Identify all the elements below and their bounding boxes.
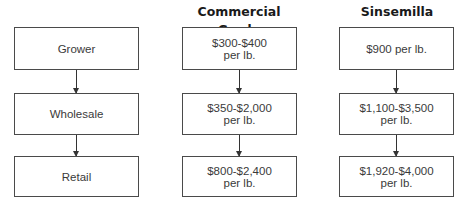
arrow-down-icon: [396, 70, 397, 93]
stage-label: Retail: [62, 171, 91, 183]
price-range: $350-$2,000: [207, 102, 272, 114]
stage-box-wholesale: Wholesale: [14, 93, 139, 135]
price-range: $1,100-$3,500: [359, 102, 433, 114]
heading-commercial-grade: Commercial Grade: [176, 3, 302, 21]
price-unit: per lb.: [381, 177, 413, 189]
arrow-down-icon: [76, 135, 77, 156]
arrow-down-icon: [239, 70, 240, 93]
stage-label: Grower: [58, 43, 96, 55]
arrow-down-icon: [396, 135, 397, 156]
sinsemilla-price-box-grower: $900 per lb.: [339, 27, 454, 70]
commercial-price-box-grower: $300-$400 per lb.: [182, 27, 297, 70]
stage-label: Wholesale: [50, 108, 104, 120]
sinsemilla-price-box-retail: $1,920-$4,000 per lb.: [339, 156, 454, 197]
stage-box-retail: Retail: [14, 156, 139, 197]
commercial-price-box-wholesale: $350-$2,000 per lb.: [182, 93, 297, 135]
price-range: $900 per lb.: [366, 43, 427, 55]
price-unit: per lb.: [381, 114, 413, 126]
commercial-price-box-retail: $800-$2,400 per lb.: [182, 156, 297, 197]
sinsemilla-price-box-wholesale: $1,100-$3,500 per lb.: [339, 93, 454, 135]
heading-sinsemilla: Sinsemilla: [336, 3, 458, 21]
price-unit: per lb.: [224, 49, 256, 61]
price-range: $800-$2,400: [207, 165, 272, 177]
price-range: $1,920-$4,000: [359, 165, 433, 177]
arrow-down-icon: [76, 70, 77, 93]
stage-box-grower: Grower: [14, 27, 139, 70]
arrow-down-icon: [239, 135, 240, 156]
price-unit: per lb.: [224, 177, 256, 189]
price-unit: per lb.: [224, 114, 256, 126]
price-range: $300-$400: [212, 37, 267, 49]
